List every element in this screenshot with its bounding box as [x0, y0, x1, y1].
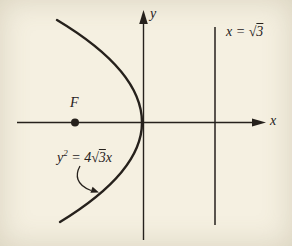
focus-point — [71, 119, 79, 127]
equation-suffix: x — [106, 150, 112, 165]
equation-label: y2 = 4√3x — [57, 150, 112, 165]
equation-radicand: 3 — [99, 150, 106, 165]
directrix-label: x = √3 — [226, 24, 263, 39]
parabola-curve — [57, 20, 142, 222]
equation-leader-arrow-icon — [90, 187, 99, 193]
x-axis-arrow-icon — [252, 119, 266, 127]
equation-mid: = 4√ — [68, 150, 99, 165]
directrix-label-radicand: 3 — [256, 24, 263, 39]
y-axis-label: y — [150, 6, 156, 21]
equation-leader-line — [77, 166, 91, 191]
y-axis-arrow-icon — [139, 10, 148, 24]
figure-canvas: y x F x = √3 y2 = 4√3x — [0, 0, 292, 246]
focus-label: F — [70, 95, 79, 110]
x-axis-label: x — [270, 113, 276, 128]
directrix-label-pre: x = √ — [226, 24, 256, 39]
